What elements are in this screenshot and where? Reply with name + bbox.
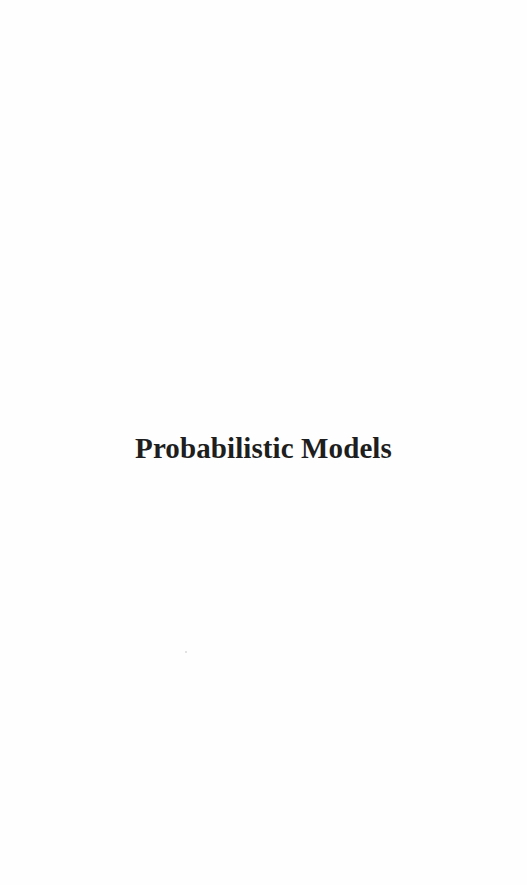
part-title: Probabilistic Models [0,428,527,468]
scan-artifact [185,651,187,653]
document-page: Probabilistic Models [0,0,527,885]
